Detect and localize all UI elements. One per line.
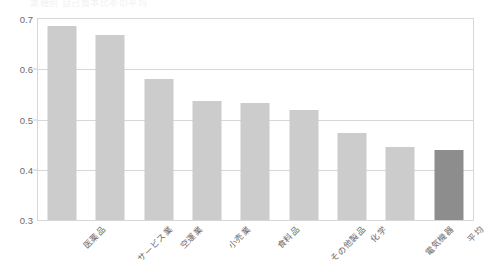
y-axis-tick xyxy=(33,69,37,70)
x-axis-tick-label: その他製品 xyxy=(327,223,367,263)
bar-series xyxy=(38,19,473,220)
bar[interactable] xyxy=(144,79,173,220)
bar[interactable] xyxy=(338,133,367,220)
x-axis: 医薬品サービス業空運業小売業食料品その他製品化学電気機器平均 xyxy=(38,221,473,273)
bar-slot xyxy=(231,19,279,220)
y-axis-tick xyxy=(33,119,37,120)
x-axis-tick-label: 食料品 xyxy=(273,223,301,251)
bar-slot xyxy=(328,19,376,220)
bar-slot xyxy=(86,19,134,220)
bar-slot xyxy=(280,19,328,220)
y-axis-tick xyxy=(33,169,37,170)
bar-slot xyxy=(183,19,231,220)
y-axis-tick-label: 0.7 xyxy=(20,14,33,25)
bar-slot xyxy=(425,19,473,220)
bar[interactable] xyxy=(434,150,463,220)
y-axis-tick-label: 0.5 xyxy=(20,114,33,125)
y-axis-tick-label: 0.6 xyxy=(20,64,33,75)
bar-slot xyxy=(38,19,86,220)
y-axis-tick-label: 0.4 xyxy=(20,164,33,175)
x-axis-tick-label: 空運業 xyxy=(177,223,205,251)
bar[interactable] xyxy=(386,147,415,220)
chart-caption: 業種別 自己資本比率の平均 xyxy=(30,0,147,9)
bar[interactable] xyxy=(193,101,222,220)
x-axis-tick-label: 小売業 xyxy=(225,223,253,251)
y-axis-tick-label: 0.3 xyxy=(20,215,33,226)
x-axis-tick-label: 化学 xyxy=(367,223,388,244)
bar[interactable] xyxy=(289,110,318,220)
bar[interactable] xyxy=(48,26,77,220)
bar-slot xyxy=(135,19,183,220)
bar[interactable] xyxy=(241,103,270,220)
x-axis-tick-label: 電気機器 xyxy=(421,223,455,257)
x-axis-tick-label: 平均 xyxy=(464,223,485,244)
bar-slot xyxy=(376,19,424,220)
y-axis: 0.70.60.50.40.3 xyxy=(0,18,33,221)
x-axis-tick-label: サービス業 xyxy=(134,223,174,263)
x-axis-tick-label: 医薬品 xyxy=(80,223,108,251)
bar[interactable] xyxy=(96,35,125,220)
bar-chart: 業種別 自己資本比率の平均 0.70.60.50.40.3 医薬品サービス業空運… xyxy=(0,0,490,273)
